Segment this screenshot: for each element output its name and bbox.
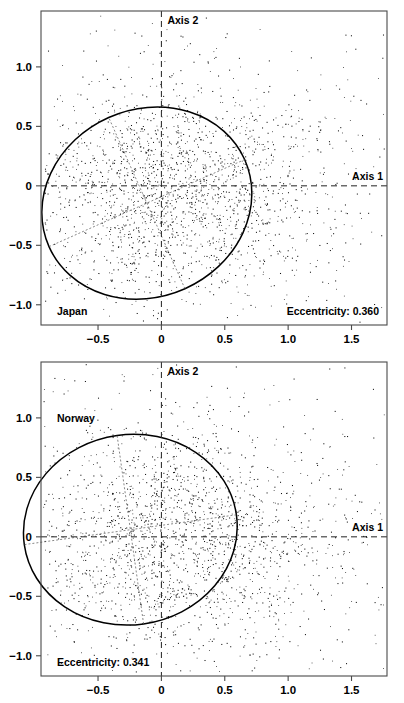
- scatter-point: [215, 546, 216, 547]
- scatter-point: [285, 203, 286, 204]
- scatter-point: [172, 554, 173, 555]
- scatter-point: [279, 566, 280, 567]
- scatter-point: [207, 195, 208, 196]
- scatter-point: [245, 547, 246, 548]
- scatter-point: [212, 222, 213, 223]
- scatter-point: [274, 561, 275, 562]
- scatter-point: [272, 540, 273, 541]
- scatter-point: [133, 202, 134, 203]
- scatter-point: [156, 576, 157, 577]
- scatter-point: [172, 158, 173, 159]
- scatter-point: [45, 301, 46, 302]
- scatter-point: [74, 380, 75, 381]
- scatter-point: [223, 191, 224, 192]
- scatter-point: [246, 192, 247, 193]
- scatter-point: [274, 487, 275, 488]
- scatter-point: [375, 509, 376, 510]
- scatter-point: [296, 260, 297, 261]
- scatter-point: [239, 192, 240, 193]
- scatter-point: [165, 398, 166, 399]
- scatter-point: [383, 605, 384, 606]
- scatter-point: [113, 451, 114, 452]
- scatter-point: [249, 118, 250, 119]
- scatter-point: [244, 645, 245, 646]
- scatter-point: [283, 472, 284, 473]
- scatter-point: [204, 469, 205, 470]
- scatter-point: [259, 656, 260, 657]
- scatter-point: [191, 271, 192, 272]
- scatter-point: [205, 218, 206, 219]
- scatter-point: [128, 543, 129, 544]
- scatter-point: [126, 208, 127, 209]
- scatter-point: [64, 497, 65, 498]
- scatter-point: [59, 498, 60, 499]
- scatter-point: [154, 171, 155, 172]
- scatter-point: [241, 592, 242, 593]
- scatter-point: [238, 519, 239, 520]
- scatter-point: [271, 552, 272, 553]
- scatter-point: [187, 490, 188, 491]
- scatter-point: [235, 562, 236, 563]
- scatter-point: [253, 455, 254, 456]
- scatter-point: [310, 126, 311, 127]
- scatter-point: [101, 518, 102, 519]
- scatter-point: [208, 152, 209, 153]
- scatter-point: [173, 472, 174, 473]
- scatter-point: [290, 510, 291, 511]
- scatter-point: [147, 207, 148, 208]
- scatter-point: [264, 92, 265, 93]
- scatter-point: [173, 231, 174, 232]
- scatter-point: [166, 202, 167, 203]
- scatter-point: [199, 122, 200, 123]
- scatter-point: [57, 156, 58, 157]
- scatter-point: [189, 292, 190, 293]
- scatter-point: [168, 104, 169, 105]
- scatter-point: [215, 578, 216, 579]
- y-tick-label: 0: [26, 531, 32, 543]
- scatter-point: [179, 108, 180, 109]
- scatter-point: [195, 437, 196, 438]
- scatter-point: [149, 164, 150, 165]
- scatter-point: [163, 473, 164, 474]
- scatter-point: [196, 556, 197, 557]
- scatter-point: [78, 601, 79, 602]
- scatter-point: [213, 209, 214, 210]
- scatter-point: [310, 224, 311, 225]
- scatter-point: [202, 202, 203, 203]
- scatter-point: [317, 140, 318, 141]
- scatter-point: [259, 589, 260, 590]
- scatter-point: [203, 187, 204, 188]
- scatter-point: [324, 172, 325, 173]
- scatter-point: [155, 114, 156, 115]
- scatter-point: [131, 566, 132, 567]
- scatter-point: [213, 487, 214, 488]
- scatter-point: [212, 641, 213, 642]
- scatter-point: [63, 453, 64, 454]
- scatter-point: [164, 216, 165, 217]
- scatter-point: [221, 165, 222, 166]
- scatter-point: [145, 221, 146, 222]
- scatter-point: [155, 482, 156, 483]
- scatter-point: [213, 639, 214, 640]
- scatter-point: [262, 220, 263, 221]
- scatter-point: [109, 239, 110, 240]
- scatter-point: [220, 463, 221, 464]
- scatter-point: [119, 583, 120, 584]
- scatter-point: [330, 227, 331, 228]
- scatter-point: [94, 587, 95, 588]
- scatter-point: [92, 482, 93, 483]
- scatter-point: [243, 647, 244, 648]
- scatter-point: [290, 507, 291, 508]
- scatter-point: [113, 568, 114, 569]
- axis-2-label: Axis 2: [167, 365, 198, 377]
- scatter-point: [196, 215, 197, 216]
- scatter-point: [243, 153, 244, 154]
- scatter-point: [133, 517, 134, 518]
- scatter-point: [357, 511, 358, 512]
- scatter-point: [143, 242, 144, 243]
- scatter-point: [142, 531, 143, 532]
- scatter-point: [301, 533, 302, 534]
- scatter-point: [118, 448, 119, 449]
- scatter-point: [234, 539, 235, 540]
- scatter-point: [155, 472, 156, 473]
